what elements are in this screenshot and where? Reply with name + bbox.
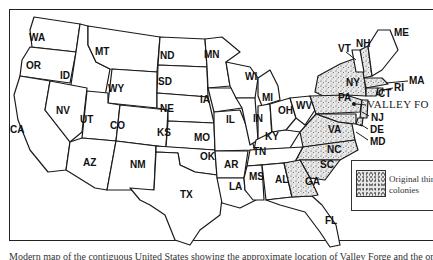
label-vt: VT xyxy=(338,43,351,54)
label-mt: MT xyxy=(95,46,109,57)
valley-forge-label: VALLEY FO xyxy=(367,98,429,110)
label-ma: MA xyxy=(409,75,425,86)
label-in: IN xyxy=(253,113,263,124)
label-id: ID xyxy=(60,70,70,81)
label-or: OR xyxy=(26,60,42,71)
label-sc: SC xyxy=(320,159,334,170)
state-shapes xyxy=(14,17,340,247)
label-nv: NV xyxy=(56,105,70,116)
label-ne: NE xyxy=(160,103,174,114)
label-ia: IA xyxy=(200,94,210,105)
label-sd: SD xyxy=(158,76,172,87)
label-ks: KS xyxy=(157,127,171,138)
label-pa: PA xyxy=(338,92,351,103)
label-mi: MI xyxy=(262,92,273,103)
label-ca: CA xyxy=(10,124,24,135)
map-caption: Modern map of the contiguous United Stat… xyxy=(9,251,433,260)
stipple-swatch-icon xyxy=(356,170,386,197)
label-me: ME xyxy=(394,27,409,38)
label-ms: MS xyxy=(249,171,264,182)
us-map: WA OR ID MT WY ND SD NE MN NV UT CO CA K… xyxy=(0,0,433,260)
label-co: CO xyxy=(110,120,125,131)
label-wi: WI xyxy=(245,71,257,82)
label-ri: RI xyxy=(394,82,404,93)
label-az: AZ xyxy=(83,157,96,168)
label-fl: FL xyxy=(325,215,337,226)
label-ny: NY xyxy=(346,77,360,88)
label-il: IL xyxy=(226,114,235,125)
label-wy: WY xyxy=(108,83,124,94)
state-ma xyxy=(364,78,388,88)
label-wv: WV xyxy=(296,100,312,111)
label-la: LA xyxy=(229,181,242,192)
label-nd: ND xyxy=(160,50,174,61)
valley-forge-marker xyxy=(352,102,356,106)
label-tn: TN xyxy=(253,146,266,157)
label-ky: KY xyxy=(265,131,279,142)
leader-de xyxy=(360,124,368,129)
state-ct xyxy=(366,88,378,96)
label-nh: NH xyxy=(356,38,370,49)
label-tx: TX xyxy=(180,189,193,200)
label-wa: WA xyxy=(29,32,45,43)
label-nm: NM xyxy=(130,159,146,170)
label-ut: UT xyxy=(80,114,93,125)
legend: Original thirt colonies xyxy=(351,160,433,211)
label-de: DE xyxy=(370,124,384,135)
legend-label: Original thirt colonies xyxy=(389,174,433,196)
label-oh: OH xyxy=(278,105,293,116)
label-mo: MO xyxy=(194,132,210,143)
label-mn: MN xyxy=(204,49,220,60)
label-nj: NJ xyxy=(371,112,384,123)
label-ar: AR xyxy=(224,159,239,170)
label-nc: NC xyxy=(327,144,341,155)
label-al: AL xyxy=(275,174,288,185)
label-ga: GA xyxy=(305,176,320,187)
leader-md xyxy=(356,132,368,140)
label-ok: OK xyxy=(200,151,216,162)
label-va: VA xyxy=(328,124,341,135)
label-md: MD xyxy=(370,136,386,147)
